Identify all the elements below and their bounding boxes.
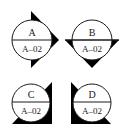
marker-a-label: A [28, 27, 36, 38]
marker-d-label: D [88, 89, 95, 100]
marker-b-label: B [89, 27, 96, 38]
marker-a: A A–02 [12, 11, 59, 68]
marker-d-sheet: A–02 [82, 106, 102, 116]
marker-c-label: C [28, 89, 35, 100]
marker-b-sheet: A–02 [82, 44, 102, 54]
marker-c-sheet: A–02 [21, 106, 41, 116]
marker-d: D A–02 [71, 82, 111, 124]
markers-canvas: A A–02 B A–02 C A–02 D A–02 [0, 0, 129, 134]
marker-b: B A–02 [65, 20, 119, 68]
marker-c: C A–02 [12, 82, 52, 124]
marker-a-sheet: A–02 [22, 44, 42, 54]
